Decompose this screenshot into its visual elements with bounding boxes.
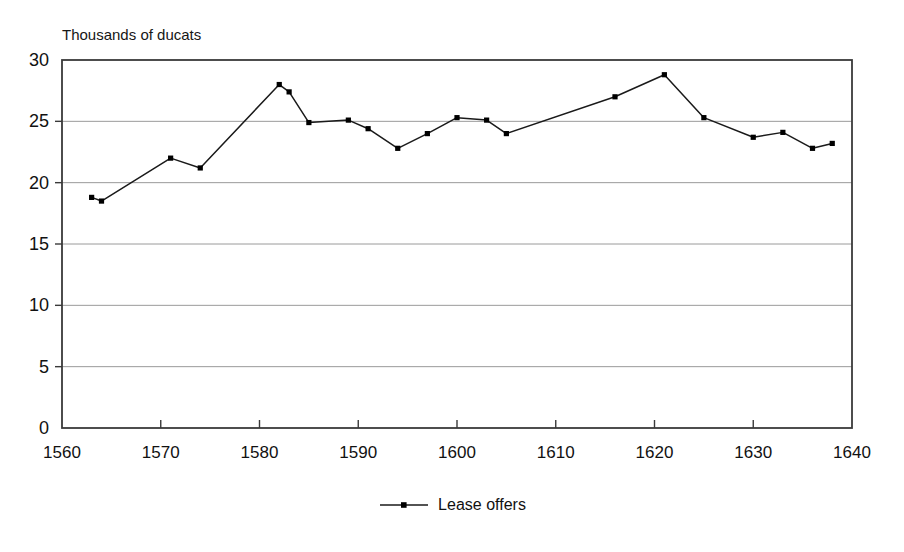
chart-figure: Thousands of ducats 051015202530 1560157… <box>0 0 904 552</box>
x-axis-tick-label: 1640 <box>833 443 871 462</box>
y-axis-tick-label: 5 <box>39 357 49 377</box>
data-point-marker <box>425 131 430 136</box>
x-axis-tick-label: 1630 <box>734 443 772 462</box>
data-point-marker <box>662 72 667 77</box>
x-axis-tick-label: 1560 <box>43 443 81 462</box>
y-axis-tick-label: 15 <box>29 234 49 254</box>
data-point-marker <box>830 141 835 146</box>
chart-legend: Lease offers <box>0 496 904 514</box>
data-point-marker <box>504 131 509 136</box>
x-axis-tick-label: 1610 <box>537 443 575 462</box>
x-axis-tick-label: 1580 <box>241 443 279 462</box>
y-axis-tick-label: 20 <box>29 173 49 193</box>
data-point-marker <box>277 82 282 87</box>
legend-entry-lease-offers: Lease offers <box>378 496 526 514</box>
line-with-marker-icon <box>378 498 430 512</box>
data-point-marker <box>99 198 104 203</box>
series-line-lease-offers <box>92 75 833 201</box>
data-point-marker <box>306 120 311 125</box>
data-point-marker <box>168 156 173 161</box>
legend-label-lease-offers: Lease offers <box>438 496 526 514</box>
data-point-marker <box>810 146 815 151</box>
data-point-marker <box>780 130 785 135</box>
x-axis-ticks-group: 156015701580159016001610162016301640 <box>43 420 871 462</box>
data-series-group <box>89 72 835 204</box>
y-axis-tick-label: 10 <box>29 295 49 315</box>
line-chart-plot: 051015202530 156015701580159016001610162… <box>0 0 904 552</box>
y-axis-ticks-group: 051015202530 <box>29 50 62 438</box>
data-point-marker <box>701 115 706 120</box>
y-axis-tick-label: 0 <box>39 418 49 438</box>
data-point-marker <box>89 195 94 200</box>
data-point-marker <box>454 115 459 120</box>
y-axis-tick-label: 30 <box>29 50 49 70</box>
x-axis-tick-label: 1590 <box>339 443 377 462</box>
data-point-marker <box>751 135 756 140</box>
gridlines-group <box>62 121 852 366</box>
y-axis-tick-label: 25 <box>29 111 49 131</box>
data-point-marker <box>484 118 489 123</box>
data-point-marker <box>612 94 617 99</box>
x-axis-tick-label: 1620 <box>636 443 674 462</box>
data-point-marker <box>346 118 351 123</box>
data-point-marker <box>287 89 292 94</box>
x-axis-tick-label: 1570 <box>142 443 180 462</box>
x-axis-tick-label: 1600 <box>438 443 476 462</box>
data-point-marker <box>198 165 203 170</box>
data-point-marker <box>366 126 371 131</box>
data-point-marker <box>395 146 400 151</box>
